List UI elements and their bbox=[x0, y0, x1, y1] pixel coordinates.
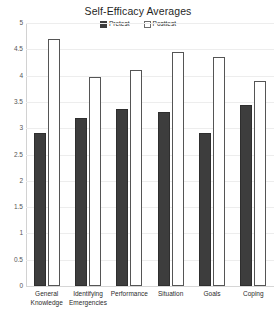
bar-posttest bbox=[89, 77, 101, 286]
y-tick-label: 4.5 bbox=[14, 46, 23, 53]
bar-pretest bbox=[116, 109, 128, 286]
bar-posttest bbox=[213, 57, 225, 286]
y-tick-label: 2 bbox=[19, 178, 23, 185]
y-tick-label: 2.5 bbox=[14, 151, 23, 158]
plot-area bbox=[26, 23, 274, 286]
y-tick-label: 4 bbox=[19, 72, 23, 79]
bar-pretest bbox=[240, 105, 252, 286]
y-axis-tick-labels: 00.511.522.533.544.55 bbox=[0, 23, 23, 286]
bar-posttest bbox=[130, 70, 142, 286]
y-tick-label: 1 bbox=[19, 230, 23, 237]
y-tick-label: 3 bbox=[19, 125, 23, 132]
y-tick-label: 0 bbox=[19, 283, 23, 290]
bar-group bbox=[233, 23, 274, 286]
x-axis-category-labels: General KnowledgeIdentifying Emergencies… bbox=[26, 289, 274, 308]
bar-posttest bbox=[254, 81, 266, 286]
y-tick-label: 1.5 bbox=[14, 204, 23, 211]
y-tick-label: 5 bbox=[19, 20, 23, 27]
x-tick-label: Coping bbox=[233, 289, 274, 308]
bars-layer bbox=[26, 23, 274, 286]
chart-title: Self-Efficacy Averages bbox=[0, 5, 276, 17]
bar-pretest bbox=[199, 133, 211, 286]
bar-group bbox=[26, 23, 67, 286]
bar-pretest bbox=[34, 133, 46, 286]
bar-group bbox=[67, 23, 108, 286]
x-tick-label: Situation bbox=[150, 289, 191, 308]
y-tick-label: 3.5 bbox=[14, 99, 23, 106]
bar-chart: Self-Efficacy Averages Pretest Posttest … bbox=[0, 0, 276, 318]
x-tick-label: Identifying Emergencies bbox=[67, 289, 108, 308]
bar-posttest bbox=[48, 39, 60, 286]
x-tick-label: Goals bbox=[191, 289, 232, 308]
bar-pretest bbox=[75, 118, 87, 286]
bar-group bbox=[109, 23, 150, 286]
bar-pretest bbox=[158, 112, 170, 286]
x-tick-label: General Knowledge bbox=[26, 289, 67, 308]
bar-posttest bbox=[172, 52, 184, 286]
gridline bbox=[26, 286, 274, 287]
y-tick-label: 0.5 bbox=[14, 256, 23, 263]
bar-group bbox=[191, 23, 232, 286]
x-tick-label: Performance bbox=[109, 289, 150, 308]
bar-group bbox=[150, 23, 191, 286]
